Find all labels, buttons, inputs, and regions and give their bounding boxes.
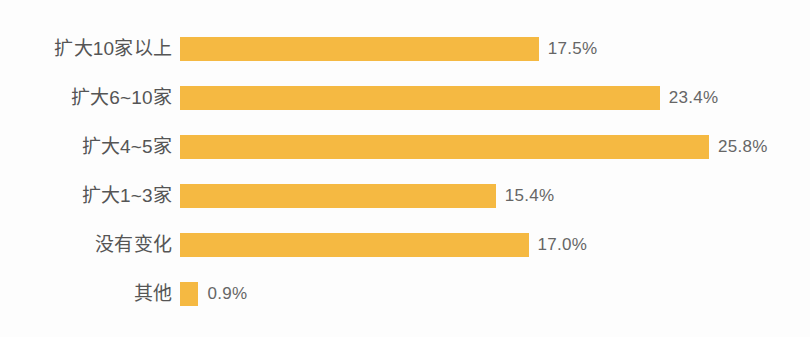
bar-row: 扩大4~5家 25.8% (0, 122, 810, 171)
bar-area: 25.8% (180, 135, 810, 159)
bar (180, 135, 709, 159)
bar-value-label: 25.8% (718, 138, 768, 155)
bar-area: 17.5% (180, 37, 810, 61)
bar (180, 37, 539, 61)
bar-chart-rows: 扩大10家以上 17.5% 扩大6~10家 23.4% 扩大4~5家 25.8%… (0, 24, 810, 318)
bar-area: 17.0% (180, 233, 810, 257)
category-label: 扩大6~10家 (0, 88, 180, 107)
bar (180, 233, 529, 257)
bar-value-label: 15.4% (505, 187, 555, 204)
bar-row: 扩大6~10家 23.4% (0, 73, 810, 122)
category-label: 没有变化 (0, 235, 180, 254)
bar (180, 86, 660, 110)
category-label: 其他 (0, 284, 180, 303)
bar-value-label: 0.9% (207, 285, 247, 302)
bar-area: 15.4% (180, 184, 810, 208)
bar-value-label: 17.5% (548, 40, 598, 57)
bar-row: 扩大1~3家 15.4% (0, 171, 810, 220)
bar-value-label: 17.0% (538, 236, 588, 253)
bar-value-label: 23.4% (669, 89, 719, 106)
bar (180, 184, 496, 208)
bar (180, 282, 198, 306)
bar-chart: 扩大10家以上 17.5% 扩大6~10家 23.4% 扩大4~5家 25.8%… (0, 0, 810, 337)
bar-row: 其他 0.9% (0, 269, 810, 318)
category-label: 扩大10家以上 (0, 39, 180, 58)
bar-row: 没有变化 17.0% (0, 220, 810, 269)
bar-area: 23.4% (180, 86, 810, 110)
bar-area: 0.9% (180, 282, 810, 306)
bar-row: 扩大10家以上 17.5% (0, 24, 810, 73)
category-label: 扩大1~3家 (0, 186, 180, 205)
category-label: 扩大4~5家 (0, 137, 180, 156)
